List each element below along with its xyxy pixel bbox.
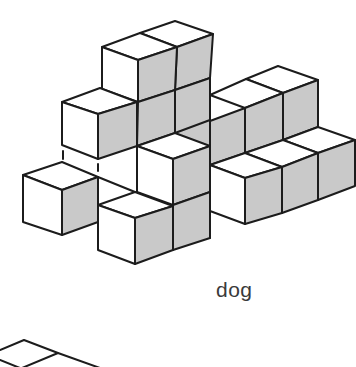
front-bottom-cube bbox=[98, 192, 173, 264]
small-left-cube bbox=[23, 162, 98, 235]
cube-right-face bbox=[245, 167, 282, 224]
figure-label: dog bbox=[216, 278, 253, 302]
left-step-cube bbox=[62, 88, 137, 159]
partial-next-figure bbox=[0, 340, 100, 367]
cube-structure-diagram bbox=[0, 0, 356, 367]
